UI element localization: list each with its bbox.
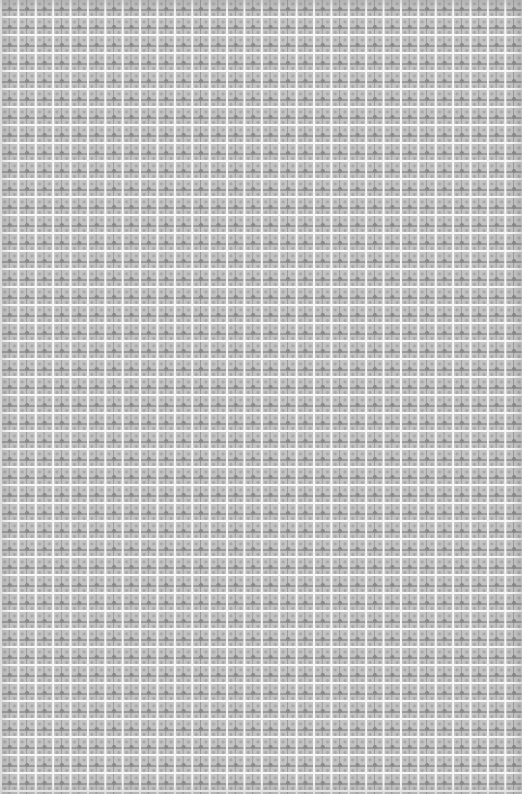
tiled-pattern-texture — [0, 0, 522, 794]
edge-vignette — [0, 0, 522, 794]
white-grid-lines — [0, 0, 522, 794]
